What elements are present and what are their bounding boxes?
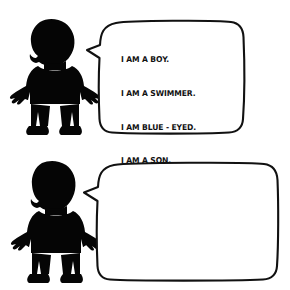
speech-bubble-outline-2 [84, 163, 278, 281]
boy-silhouette-2 [0, 145, 110, 290]
bubble-line: I AM A SWIMMER. [121, 88, 239, 100]
bubble-line: I AM A BOY. [121, 54, 239, 66]
comic-panel-1: I AM A BOY. I AM A SWIMMER. I AM BLUE - … [0, 0, 290, 145]
comic-sheet: I AM A BOY. I AM A SWIMMER. I AM BLUE - … [0, 0, 290, 290]
boy-silhouette-1 [0, 0, 110, 145]
comic-panel-2: I AM A BOY. I AM 4'11". I AM A TENNIS PL… [0, 145, 290, 290]
bubble-line: I AM BLUE - EYED. [121, 122, 239, 134]
